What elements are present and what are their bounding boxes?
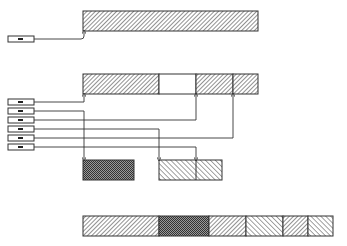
bottom-block-segment [159, 216, 209, 236]
lower-block-2 [159, 160, 222, 180]
bottom-block-segment [308, 216, 333, 236]
middle-block-segment [83, 74, 159, 94]
middle-block-segment [233, 74, 258, 94]
pointer-dot-icon [18, 38, 23, 40]
middle-block-segment [159, 74, 196, 94]
pointer-dot-icon [18, 128, 23, 130]
pointer-arrow-4 [34, 129, 159, 159]
top-pointer-arrow [34, 32, 84, 39]
pointer-dot-icon [18, 110, 23, 112]
bottom-block-segment [83, 216, 159, 236]
pointer-dot-icon [18, 119, 23, 121]
pointer-arrow-5 [34, 95, 233, 138]
pointer-dot-icon [18, 137, 23, 139]
bottom-block-segment [209, 216, 246, 236]
pointer-arrow-3 [34, 95, 196, 120]
memory-diagram [0, 0, 347, 246]
pointer-dot-icon [18, 101, 23, 103]
middle-block-segment [196, 74, 233, 94]
lower-block-1 [83, 160, 134, 180]
pointer-arrow-2 [34, 111, 84, 159]
pointer-dot-icon [18, 146, 23, 148]
pointer-arrow-6 [34, 147, 196, 159]
pointer-arrow-1 [34, 95, 84, 102]
diagram-layer [8, 11, 333, 236]
bottom-block-segment [283, 216, 308, 236]
top-block [83, 11, 258, 31]
bottom-block-segment [246, 216, 283, 236]
